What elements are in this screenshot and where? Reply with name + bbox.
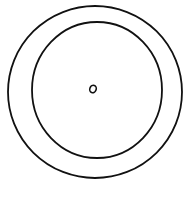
inner-ring [32, 22, 162, 158]
concentric-circles-drawing [0, 0, 194, 216]
sketch-canvas [0, 0, 194, 216]
center-dot [89, 84, 98, 93]
